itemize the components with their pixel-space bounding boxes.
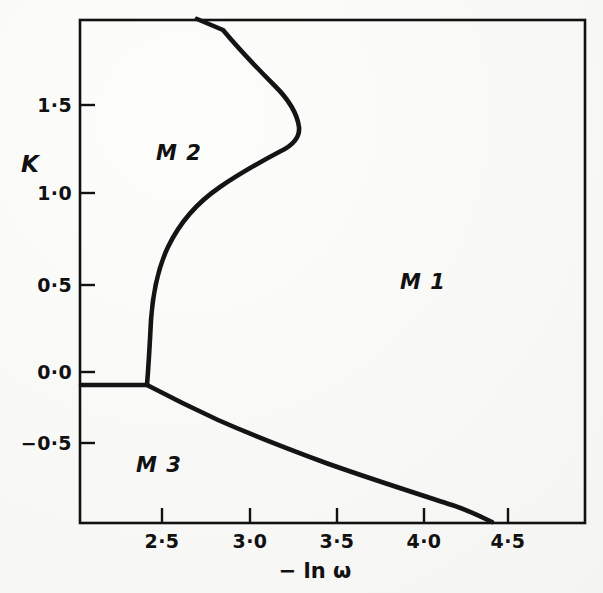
x-axis-label: − ln ω <box>279 559 352 583</box>
x-ticklabel-4-5: 4·5 <box>491 530 526 552</box>
x-ticklabel-3-0: 3·0 <box>233 530 268 552</box>
region-label-m1: M 1 <box>400 270 446 294</box>
plot-frame <box>80 20 585 523</box>
phase-diagram-plot: 1·5 1·0 0·5 0·0 −0·5 2·5 3·0 3·5 4·0 4·5… <box>0 0 603 593</box>
region-label-m2: M 2 <box>156 141 202 165</box>
figure-container: 1·5 1·0 0·5 0·0 −0·5 2·5 3·0 3·5 4·0 4·5… <box>0 0 603 593</box>
y-axis-ticks <box>80 105 95 443</box>
x-ticklabel-3-5: 3·5 <box>320 530 355 552</box>
y-ticklabel-neg-0-5: −0·5 <box>21 432 72 454</box>
boundary-s-curve-m1-m2 <box>147 19 299 385</box>
y-ticklabel-0-0: 0·0 <box>37 361 72 383</box>
x-ticklabel-4-0: 4·0 <box>407 530 442 552</box>
x-axis-ticks <box>162 508 508 523</box>
y-ticklabel-0-5: 0·5 <box>37 274 72 296</box>
y-ticklabel-1-5: 1·5 <box>37 94 72 116</box>
region-label-m3: M 3 <box>136 453 182 477</box>
y-ticklabel-1-0: 1·0 <box>37 182 72 204</box>
boundary-descending-m1-m3 <box>147 385 492 522</box>
y-axis-label: Κ <box>21 151 41 177</box>
x-ticklabel-2-5: 2·5 <box>145 530 180 552</box>
